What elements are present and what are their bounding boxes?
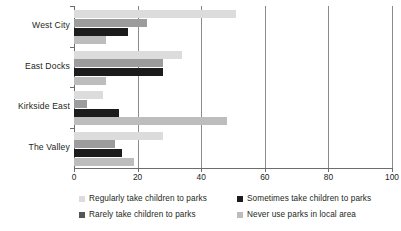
legend-label: Regularly take children to parks <box>89 194 207 203</box>
bar <box>74 117 227 125</box>
legend-label: Rarely take children to parks <box>89 210 196 219</box>
plot-area <box>74 6 392 168</box>
category-tick <box>70 128 74 129</box>
bar-group <box>74 47 392 88</box>
category-tick <box>70 6 74 7</box>
legend-label: Sometimes take children to parks <box>247 194 371 203</box>
category-axis-labels: West CityEast DocksKirkside EastThe Vall… <box>0 6 70 168</box>
category-label: Kirkside East <box>2 101 70 111</box>
x-tick-label: 100 <box>385 172 399 182</box>
category-label: East Docks <box>2 61 70 71</box>
legend-swatch-icon <box>79 196 85 202</box>
legend-item[interactable]: Never use parks in local area <box>237 210 356 219</box>
bar <box>74 36 106 44</box>
legend-swatch-icon <box>79 212 85 218</box>
bar <box>74 77 106 85</box>
bar-group <box>74 6 392 47</box>
x-tick-mark-20 <box>138 168 139 172</box>
bar <box>74 51 182 59</box>
bar <box>74 140 115 148</box>
bar <box>74 91 103 99</box>
category-label: The Valley <box>2 142 70 152</box>
x-tick-label: 0 <box>72 172 77 182</box>
bar <box>74 149 122 157</box>
bar-group <box>74 128 392 169</box>
legend-label: Never use parks in local area <box>247 210 356 219</box>
bar <box>74 68 163 76</box>
bar <box>74 59 163 67</box>
x-tick-mark-80 <box>328 168 329 172</box>
bar <box>74 10 236 18</box>
chart-legend: Regularly take children to parksSometime… <box>74 193 396 227</box>
legend-item[interactable]: Sometimes take children to parks <box>237 194 371 203</box>
bar <box>74 132 163 140</box>
bar <box>74 28 128 36</box>
x-tick-mark-40 <box>201 168 202 172</box>
bar-group <box>74 87 392 128</box>
bar <box>74 100 87 108</box>
x-tick-label: 20 <box>133 172 142 182</box>
x-tick-label: 80 <box>324 172 333 182</box>
category-tick <box>70 87 74 88</box>
gridline-100 <box>392 6 393 168</box>
legend-item[interactable]: Rarely take children to parks <box>79 210 196 219</box>
bar-chart: West CityEast DocksKirkside EastThe Vall… <box>0 0 401 231</box>
x-tick-mark-100 <box>392 168 393 172</box>
bar <box>74 19 147 27</box>
x-tick-mark-60 <box>265 168 266 172</box>
x-tick-label: 60 <box>260 172 269 182</box>
legend-item[interactable]: Regularly take children to parks <box>79 194 207 203</box>
legend-swatch-icon <box>237 196 243 202</box>
x-tick-mark-0 <box>74 168 75 172</box>
x-tick-label: 40 <box>197 172 206 182</box>
x-axis-line <box>74 168 392 169</box>
bar <box>74 158 134 166</box>
legend-swatch-icon <box>237 212 243 218</box>
category-tick <box>70 47 74 48</box>
bar <box>74 109 119 117</box>
x-axis-tick-labels: 020406080100 <box>0 172 401 186</box>
category-label: West City <box>2 20 70 30</box>
